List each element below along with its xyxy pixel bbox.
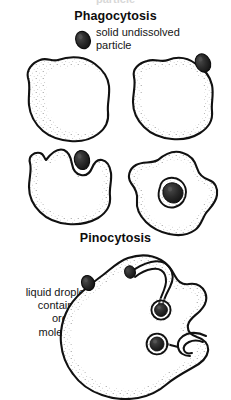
- solid-particle-vacuole: [157, 178, 187, 208]
- pinocytosis-vesicle-1: [149, 298, 173, 322]
- diagram-page: particle Phagocytosis solid undissolved …: [0, 0, 231, 400]
- solid-particle-free: [73, 29, 93, 51]
- solid-particle-engulfing: [73, 149, 92, 171]
- cell-illustrations: [0, 0, 231, 400]
- amoeba-stage-3: [29, 149, 111, 224]
- pinocytosis-vesicle-2: [144, 331, 170, 357]
- amoeba-stage-1: [28, 57, 111, 141]
